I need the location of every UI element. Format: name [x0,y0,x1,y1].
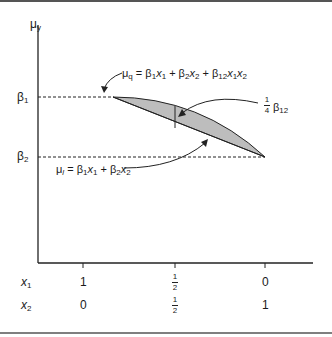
linear-equation: μl = β1x1 + β2x2 [56,164,131,177]
diagram-graphics [0,0,332,337]
x1-value: 0 [262,276,269,288]
quarter-fraction: 14 [264,96,270,115]
gap-arrow [182,99,258,113]
beta2-label: β2 [17,150,28,164]
x2-value: 1 [262,299,269,311]
x2-value: 0 [80,299,87,311]
y-axis-label: μy [30,18,41,32]
quadratic-arrow [104,73,122,89]
quadratic-equation: μq = β1x1 + β2x2 + β12x1x2 [122,68,247,81]
x1-value: 1 [80,276,87,288]
x1-half: 12 [172,273,178,292]
beta1-label: β1 [17,91,28,105]
linear-arrow [124,143,205,168]
mixture-model-figure: μy β1 β2 μq = β1x1 + β2x2 + β12x1x2 μl =… [0,0,332,337]
linear-line [113,97,265,157]
gap-label: β12 [273,102,288,115]
x1-row-label: x1 [21,276,31,290]
x2-half: 12 [172,296,178,315]
arrow-head-icon [101,86,108,93]
x2-row-label: x2 [21,299,31,313]
